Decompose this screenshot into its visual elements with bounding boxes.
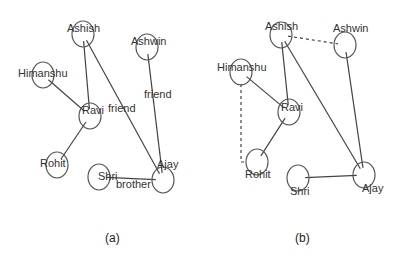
graph-b: AshishAshwinHimanshuRaviRohitShriAjay(b) <box>217 20 384 245</box>
node-label: Ashish <box>265 20 298 32</box>
node-label: Ravi <box>82 104 104 116</box>
edge-ashish-ravi <box>282 42 289 105</box>
edge-ashish-ravi <box>84 41 90 109</box>
edge-himanshu-ravi <box>247 77 284 108</box>
node-ashwin <box>334 32 356 58</box>
edge-himanshu-rohit <box>241 84 245 162</box>
node-label: Shri <box>98 170 118 182</box>
edge-ashish-ashwin <box>288 36 338 44</box>
edge-himanshu-ravi <box>48 80 84 112</box>
node-label: Ajay <box>157 158 179 170</box>
graph-caption: (a) <box>105 231 120 245</box>
node-label: Ashish <box>67 22 100 34</box>
social-graph-diagram: friendfriendbrotherAshishAshwinHimanshuR… <box>0 0 397 264</box>
edge-shri-ajay <box>305 175 357 177</box>
node-label: Himanshu <box>217 61 267 73</box>
edge-label: friend <box>144 88 172 100</box>
node-label: Ajay <box>362 182 384 194</box>
edge-ravi-rohit <box>261 118 285 156</box>
node-label: Ravi <box>281 101 303 113</box>
edge-label: brother <box>116 178 151 190</box>
node-label: Ashwin <box>131 35 166 47</box>
graph-caption: (b) <box>295 231 310 245</box>
node-label: Rohit <box>245 168 271 180</box>
graph-a: friendfriendbrotherAshishAshwinHimanshuR… <box>18 21 179 245</box>
node-label: Rohit <box>40 157 66 169</box>
node-label: Himanshu <box>18 67 68 79</box>
node-label: Shri <box>290 185 310 197</box>
node-label: Ashwin <box>333 22 368 34</box>
edge-label: friend <box>108 102 136 114</box>
edge-ravi-rohit <box>61 122 86 159</box>
edge-ashwin-ajay <box>346 52 363 168</box>
